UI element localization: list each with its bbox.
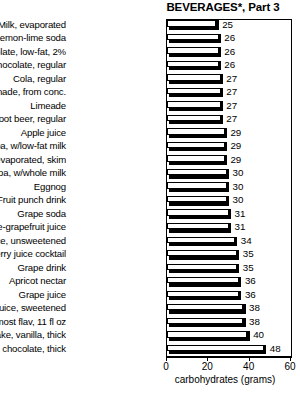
bar-shadow — [169, 202, 229, 206]
bar-category-label: Milk, chocolate, regular — [0, 59, 66, 71]
bar-row: Pineapple-grapefruit juice31 — [0, 222, 300, 234]
bar-shadow — [169, 229, 231, 233]
bar-value-label: 29 — [230, 127, 241, 139]
chart-page: BEVERAGES*, Part 3 Milk, evaporated25Lem… — [0, 0, 300, 394]
bar-value-label: 30 — [233, 181, 244, 193]
bar-tip — [224, 156, 227, 165]
bar-row: Milk, chocolate, low-fat, 2%26 — [0, 46, 300, 58]
bar-body — [167, 345, 266, 351]
bar-value-label: 27 — [226, 86, 237, 98]
bar-category-label: Grape juice — [0, 289, 66, 301]
bar-tip — [226, 183, 229, 192]
bar-category-label: Shake, chocolate, thick — [0, 343, 66, 355]
bar-value-label: 38 — [249, 316, 260, 328]
bar — [167, 20, 219, 30]
bar-shadow — [169, 94, 223, 98]
bar-body — [167, 88, 223, 94]
bar-tip — [226, 197, 229, 206]
bar-value-label: 29 — [230, 140, 241, 152]
bar-value-label: 36 — [245, 289, 256, 301]
bar-value-label: 35 — [243, 248, 254, 260]
bar — [167, 169, 229, 179]
bar-row: Cocoa, w/whole milk30 — [0, 168, 300, 180]
bar-shadow — [169, 337, 250, 341]
bar-category-label: Pineapple-grapefruit juice — [0, 221, 66, 233]
bar-category-label: Lemon-lime soda — [0, 32, 66, 44]
bar-body — [167, 101, 223, 107]
bar-body — [167, 237, 237, 243]
bar-shadow — [169, 188, 229, 192]
bar-shadow — [169, 243, 238, 247]
bar — [167, 304, 246, 314]
bar-row: Milk, evaporated, skim29 — [0, 154, 300, 166]
bar — [167, 182, 229, 192]
bar — [167, 128, 227, 138]
bar-row: Milk, chocolate, regular26 — [0, 60, 300, 72]
bar-category-label: Pineapple juice, unsweetened — [0, 235, 66, 247]
bar-tip — [246, 332, 249, 341]
bar-value-label: 36 — [245, 275, 256, 287]
bar-value-label: 27 — [226, 113, 237, 125]
bar-tip — [218, 48, 221, 57]
bar — [167, 318, 246, 328]
bar-category-label: Grape soda — [0, 208, 66, 220]
bar-body — [167, 250, 239, 256]
bar-tip — [234, 237, 237, 246]
bar-body — [167, 142, 227, 148]
bar-shadow — [169, 80, 223, 84]
bar-tip — [218, 61, 221, 70]
bar-row: Cranberry juice cocktail35 — [0, 249, 300, 261]
x-tick-label: 60 — [278, 361, 300, 372]
bar-category-label: Apricot nectar — [0, 275, 66, 287]
bar-row: Pineapple juice, unsweetened34 — [0, 235, 300, 247]
bar-shadow — [169, 134, 227, 138]
bar-shadow — [169, 215, 231, 219]
bar-row: Apricot nectar36 — [0, 276, 300, 288]
bar-body — [167, 20, 219, 26]
bar-value-label: 27 — [226, 100, 237, 112]
bar — [167, 345, 266, 355]
bar-value-label: 31 — [235, 208, 246, 220]
bar-body — [167, 196, 229, 202]
bar-row: Cocoa, w/low-fat milk29 — [0, 141, 300, 153]
bar-category-label: Milk, evaporated, skim — [0, 154, 66, 166]
bar-category-label: Root beer, regular — [0, 113, 66, 125]
bar-tip — [220, 75, 223, 84]
x-axis-label: carbohydrates (grams) — [150, 374, 300, 385]
bar-value-label: 38 — [249, 302, 260, 314]
bar-value-label: 26 — [224, 32, 235, 44]
bar-shadow — [169, 324, 246, 328]
bar — [167, 155, 227, 165]
bar — [167, 250, 239, 260]
bar-body — [167, 115, 223, 121]
bar-body — [167, 169, 229, 175]
bar-body — [167, 155, 227, 161]
bar — [167, 142, 227, 152]
bar-tip — [238, 278, 241, 287]
bar-body — [167, 182, 229, 188]
bar-tip — [224, 129, 227, 138]
bar-category-label: Cola, regular — [0, 73, 66, 85]
bar-category-label: Limeade — [0, 100, 66, 112]
bar-category-label: Milk, evaporated — [0, 19, 66, 31]
bar-tip — [220, 102, 223, 111]
bar-value-label: 25 — [222, 19, 233, 31]
bar — [167, 115, 223, 125]
chart-title: BEVERAGES*, Part 3 — [150, 1, 296, 13]
bar-row: Grape drink35 — [0, 262, 300, 274]
bar-rows: Milk, evaporated25Lemon-lime soda26Milk,… — [0, 19, 300, 357]
bar-tip — [263, 345, 266, 354]
bar-value-label: 29 — [230, 154, 241, 166]
bar-tip — [220, 88, 223, 97]
bar-shadow — [169, 53, 221, 57]
bar-shadow — [169, 351, 267, 355]
bar-shadow — [169, 310, 246, 314]
bar-row: Limeade27 — [0, 100, 300, 112]
bar-shadow — [169, 148, 227, 152]
bar-tip — [236, 264, 239, 273]
bar-body — [167, 128, 227, 134]
x-tick-label: 20 — [195, 361, 219, 372]
bar-category-label: Lemonade, from conc. — [0, 86, 66, 98]
bar-body — [167, 291, 241, 297]
bar-body — [167, 223, 231, 229]
